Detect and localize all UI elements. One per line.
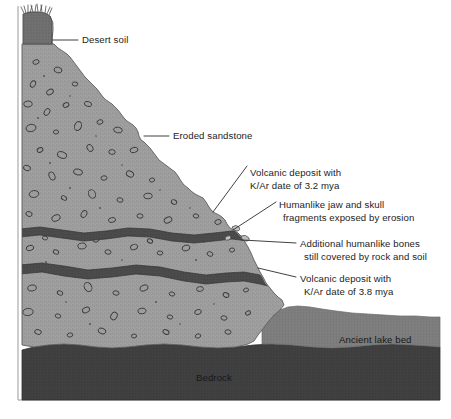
label-fossils-covered-line2: still covered by rock and soil	[304, 251, 427, 262]
label-volcanic-lower-line1: Volcanic deposit with	[300, 273, 391, 284]
label-volcanic-upper-line2: K/Ar date of 3.2 mya	[250, 180, 340, 191]
label-desert-soil: Desert soil	[82, 34, 128, 45]
label-fossils-exposed-line2: fragments exposed by erosion	[283, 212, 414, 223]
label-ancient-lake-bed: Ancient lake bed	[339, 334, 412, 345]
label-bedrock: Bedrock	[196, 372, 232, 383]
label-eroded-sandstone: Eroded sandstone	[173, 130, 252, 141]
label-fossils-covered-line1: Additional humanlike bones	[300, 238, 420, 249]
label-fossils-exposed-line1: Humanlike jaw and skull	[279, 199, 384, 210]
label-volcanic-lower-line2: K/Ar date of 3.8 mya	[304, 286, 394, 297]
layer-desert-soil	[23, 12, 53, 44]
geology-cross-section-figure: Desert soil Eroded sandstone Volcanic de…	[0, 0, 451, 419]
desert-soil-body	[23, 12, 52, 44]
cross-section-svg: Desert soil Eroded sandstone Volcanic de…	[0, 0, 451, 419]
label-volcanic-upper-line1: Volcanic deposit with	[250, 167, 341, 178]
